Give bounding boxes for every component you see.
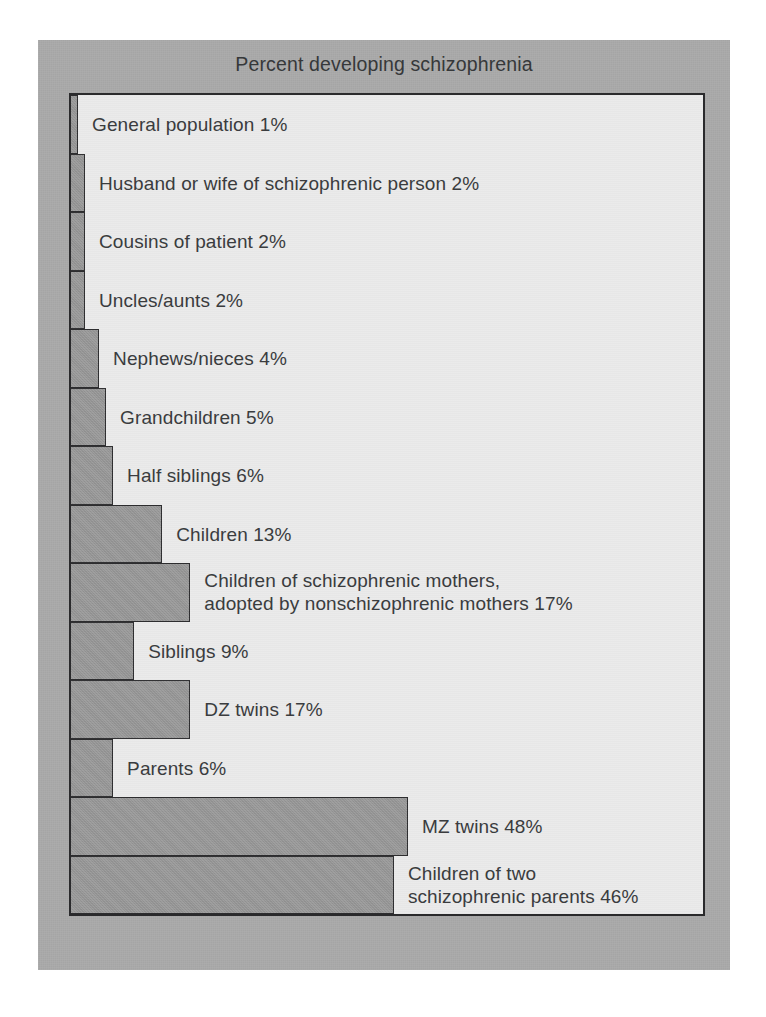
bar-row: Siblings 9%: [71, 622, 703, 681]
bar[interactable]: [71, 797, 408, 856]
bar-label: Children 13%: [176, 522, 291, 545]
bar[interactable]: [71, 505, 162, 564]
bar-row: Husband or wife of schizophrenic person …: [71, 154, 703, 213]
bar-row: Children of two schizophrenic parents 46…: [71, 856, 703, 915]
bar[interactable]: [71, 212, 85, 271]
bar-row: Children of schizophrenic mothers, adopt…: [71, 563, 703, 622]
bar[interactable]: [71, 271, 85, 330]
bar-label: Uncles/aunts 2%: [99, 288, 243, 311]
bar-row: Half siblings 6%: [71, 446, 703, 505]
chart-title: Percent developing schizophrenia: [38, 53, 730, 76]
bar[interactable]: [71, 622, 134, 681]
bar-label: Half siblings 6%: [127, 464, 264, 487]
bar-chart-plot-area: General population 1%Husband or wife of …: [69, 93, 705, 916]
bar[interactable]: [71, 446, 113, 505]
bar-row: Nephews/nieces 4%: [71, 329, 703, 388]
bar-row: Grandchildren 5%: [71, 388, 703, 447]
bar[interactable]: [71, 680, 190, 739]
bar[interactable]: [71, 95, 78, 154]
bar-row: Uncles/aunts 2%: [71, 271, 703, 330]
bar-label: Children of two schizophrenic parents 46…: [408, 862, 639, 908]
bar-label: Siblings 9%: [148, 639, 248, 662]
bar-row: Parents 6%: [71, 739, 703, 798]
bar-label: Grandchildren 5%: [120, 405, 274, 428]
figure-mat: Percent developing schizophrenia General…: [38, 40, 730, 970]
bar-row: DZ twins 17%: [71, 680, 703, 739]
bar-label: Cousins of patient 2%: [99, 230, 286, 253]
bar[interactable]: [71, 856, 394, 915]
bar-row: MZ twins 48%: [71, 797, 703, 856]
bar-row: General population 1%: [71, 95, 703, 154]
bar[interactable]: [71, 739, 113, 798]
bar[interactable]: [71, 563, 190, 622]
bar-label: Parents 6%: [127, 756, 226, 779]
bar[interactable]: [71, 388, 106, 447]
bar-label: DZ twins 17%: [204, 698, 322, 721]
bar-label: Nephews/nieces 4%: [113, 347, 287, 370]
bar-row: Children 13%: [71, 505, 703, 564]
bar-label: General population 1%: [92, 113, 287, 136]
bar[interactable]: [71, 154, 85, 213]
bar-label: Husband or wife of schizophrenic person …: [99, 171, 479, 194]
bar[interactable]: [71, 329, 99, 388]
bar-row: Cousins of patient 2%: [71, 212, 703, 271]
bar-label: Children of schizophrenic mothers, adopt…: [204, 569, 572, 615]
bar-label: MZ twins 48%: [422, 815, 543, 838]
